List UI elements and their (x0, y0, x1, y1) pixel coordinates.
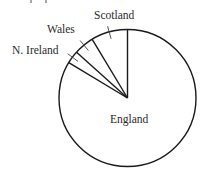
label-n-ireland: N. Ireland (12, 45, 59, 57)
label-wales: Wales (47, 24, 75, 36)
pie-body (59, 30, 196, 167)
label-scotland: Scotland (94, 10, 134, 22)
cut-off-heading-fragment (31, 0, 46, 3)
pie-chart (0, 0, 207, 175)
label-england: England (110, 114, 148, 126)
